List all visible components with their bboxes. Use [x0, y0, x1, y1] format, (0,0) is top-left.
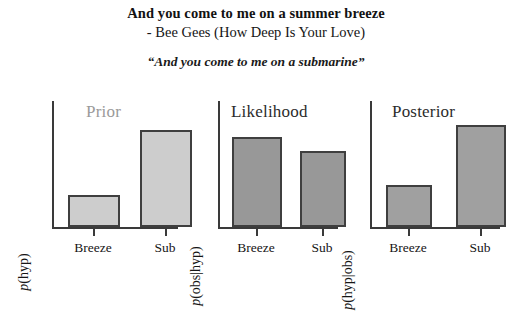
- chart-panel-posterior: p(hyp|obs) Posterior Breeze Sub: [340, 97, 512, 257]
- y-axis-label-posterior-rest: (hyp|obs): [340, 250, 355, 303]
- y-axis-label-likelihood-p: p: [188, 299, 203, 306]
- y-axis-label-likelihood: p(obs|hyp): [188, 221, 208, 315]
- y-axis-label-likelihood-rest: (obs|hyp): [188, 246, 203, 299]
- plot-area-likelihood: Likelihood Breeze Sub: [218, 101, 338, 229]
- x-tick-posterior-sub: [480, 229, 482, 236]
- song-lyric-title: And you come to me on a summer breeze: [0, 4, 512, 22]
- y-axis-label-posterior: p(hyp|obs): [340, 225, 360, 315]
- y-axis-label-posterior-p: p: [340, 303, 355, 310]
- x-axis-label-likelihood-breeze: Breeze: [223, 240, 289, 256]
- x-tick-posterior-breeze: [408, 229, 410, 236]
- x-axis-label-posterior-breeze: Breeze: [375, 240, 441, 256]
- song-attribution: - Bee Gees (How Deep Is Your Love): [0, 23, 512, 42]
- x-axis-line-likelihood: [218, 227, 338, 229]
- bars-group-likelihood: [220, 101, 338, 227]
- bars-group-prior: [54, 101, 178, 227]
- x-tick-likelihood-sub: [322, 229, 324, 236]
- bar-posterior-sub: [456, 125, 506, 227]
- x-axis-line-prior: [52, 227, 178, 229]
- x-axis-label-posterior-sub: Sub: [455, 240, 505, 256]
- parody-lyric-quote: “And you come to me on a submarine”: [0, 53, 512, 71]
- plot-area-posterior: Posterior Breeze Sub: [370, 101, 500, 229]
- chart-panel-likelihood: p(obs|hyp) Likelihood Breeze Sub: [182, 97, 340, 257]
- bars-group-posterior: [372, 101, 500, 227]
- y-axis-label-prior-p: p: [16, 284, 31, 291]
- x-tick-prior-breeze: [93, 229, 95, 236]
- bar-likelihood-breeze: [232, 137, 282, 227]
- plot-area-prior: Prior Breeze Sub: [52, 101, 178, 229]
- y-axis-label-prior: p(hyp): [16, 217, 36, 315]
- x-tick-prior-sub: [165, 229, 167, 236]
- bayes-charts-row: p(hyp) Prior Breeze Sub p(obs|hyp) Likel…: [0, 97, 512, 257]
- y-axis-label-prior-rest: (hyp): [16, 253, 31, 283]
- figure-header: And you come to me on a summer breeze - …: [0, 0, 512, 71]
- x-axis-label-prior-breeze: Breeze: [60, 240, 126, 256]
- bar-posterior-breeze: [386, 185, 432, 227]
- bar-prior-breeze: [68, 195, 120, 227]
- chart-panel-prior: p(hyp) Prior Breeze Sub: [0, 97, 182, 257]
- x-tick-likelihood-breeze: [256, 229, 258, 236]
